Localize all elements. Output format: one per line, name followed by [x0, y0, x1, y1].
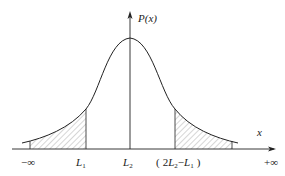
- tick-pos-inf: +∞: [264, 156, 278, 168]
- normal-distribution-diagram: P(x) x −∞ L1 L2 (2L2−L1) +∞: [0, 0, 285, 176]
- tick-2L2-minus-L1: (2L2−L1): [156, 156, 201, 170]
- left-tail-shading: [22, 109, 86, 149]
- tick-L1: L1: [75, 156, 86, 170]
- right-tail-shading: [175, 109, 238, 149]
- tick-neg-inf: −∞: [21, 156, 35, 168]
- y-axis-label: P(x): [137, 12, 157, 25]
- x-axis-label: x: [256, 126, 262, 138]
- tick-L2: L2: [122, 156, 133, 170]
